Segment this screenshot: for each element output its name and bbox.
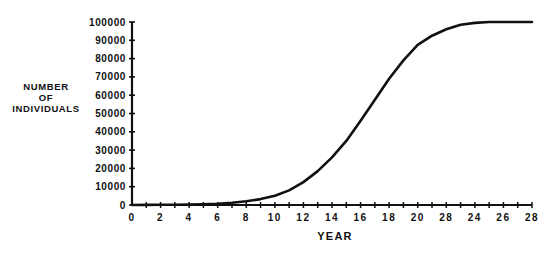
population-curve: [132, 22, 532, 205]
y-tick-label: 40000: [95, 126, 126, 137]
y-tick-label: 10000: [95, 181, 126, 192]
y-tick-label: 30000: [95, 145, 126, 156]
x-tick-label: 16: [354, 212, 368, 223]
y-tick-label: 50000: [95, 108, 126, 119]
x-axis-title: YEAR: [317, 230, 352, 242]
y-tick-label: 100000: [89, 17, 126, 28]
x-tick-label: 6: [214, 212, 221, 223]
x-tick-label: 28: [525, 212, 539, 223]
x-tick-label: 20: [411, 212, 425, 223]
line-chart: 0100002000030000400005000060000700008000…: [0, 0, 550, 256]
x-tick-label: 2: [157, 212, 164, 223]
x-tick-label: 8: [243, 212, 250, 223]
x-tick-label: 18: [382, 212, 396, 223]
x-tick-label: 26: [496, 212, 510, 223]
y-tick-label: 0: [120, 200, 126, 211]
x-tick-label: 10: [268, 212, 282, 223]
x-tick-label: 28: [439, 212, 453, 223]
x-tick-label: 14: [325, 212, 339, 223]
x-tick-label: 4: [186, 212, 193, 223]
y-tick-label: 60000: [95, 90, 126, 101]
axes: [132, 22, 532, 205]
tick-labels: 0100002000030000400005000060000700008000…: [89, 17, 539, 224]
y-tick-label: 20000: [95, 163, 126, 174]
y-tick-label: 80000: [95, 53, 126, 64]
y-tick-label: 70000: [95, 71, 126, 82]
x-tick-label: 0: [128, 212, 135, 223]
x-tick-label: 24: [468, 212, 482, 223]
y-tick-label: 90000: [95, 35, 126, 46]
x-tick-label: 12: [296, 212, 310, 223]
ticks: [129, 22, 532, 208]
